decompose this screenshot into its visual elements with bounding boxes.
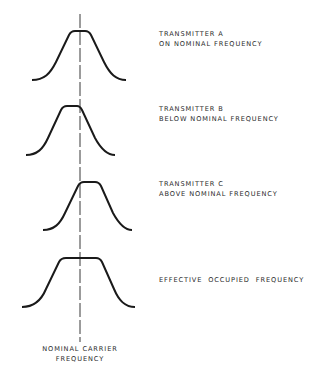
- curve-effective-occupied: [22, 258, 135, 307]
- label-transmitter-c: TRANSMITTER C ABOVE NOMINAL FREQUENCY: [159, 180, 278, 199]
- nominal-carrier-label: NOMINAL CARRIER FREQUENCY: [30, 344, 130, 364]
- label-effective-occupied-title: EFFECTIVE OCCUPIED FREQUENCY: [159, 276, 304, 286]
- curve-transmitter-c: [43, 182, 132, 230]
- label-transmitter-b: TRANSMITTER B BELOW NOMINAL FREQUENCY: [159, 105, 279, 124]
- label-transmitter-a-title: TRANSMITTER A: [159, 30, 262, 40]
- label-transmitter-c-subtitle: ABOVE NOMINAL FREQUENCY: [159, 190, 278, 200]
- nominal-carrier-label-line2: FREQUENCY: [30, 354, 130, 364]
- label-effective-occupied: EFFECTIVE OCCUPIED FREQUENCY: [159, 257, 304, 295]
- nominal-carrier-label-line1: NOMINAL CARRIER: [30, 344, 130, 354]
- curve-transmitter-a: [32, 31, 126, 80]
- label-transmitter-b-title: TRANSMITTER B: [159, 105, 279, 115]
- label-transmitter-b-subtitle: BELOW NOMINAL FREQUENCY: [159, 115, 279, 125]
- label-transmitter-a-subtitle: ON NOMINAL FREQUENCY: [159, 40, 262, 50]
- label-transmitter-c-title: TRANSMITTER C: [159, 180, 278, 190]
- label-transmitter-a: TRANSMITTER A ON NOMINAL FREQUENCY: [159, 30, 262, 49]
- curve-transmitter-b: [26, 106, 115, 155]
